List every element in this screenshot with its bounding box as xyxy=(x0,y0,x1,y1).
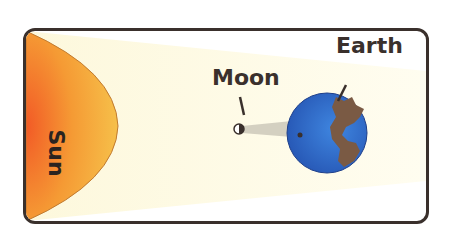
sun-label: Sun xyxy=(44,129,69,176)
sun-moon-earth-diagram xyxy=(26,31,426,221)
earth-marker xyxy=(298,133,303,138)
moon-label: Moon xyxy=(212,65,280,90)
earth-label: Earth xyxy=(336,33,403,58)
diagram-frame: Sun Moon Earth xyxy=(23,28,429,224)
